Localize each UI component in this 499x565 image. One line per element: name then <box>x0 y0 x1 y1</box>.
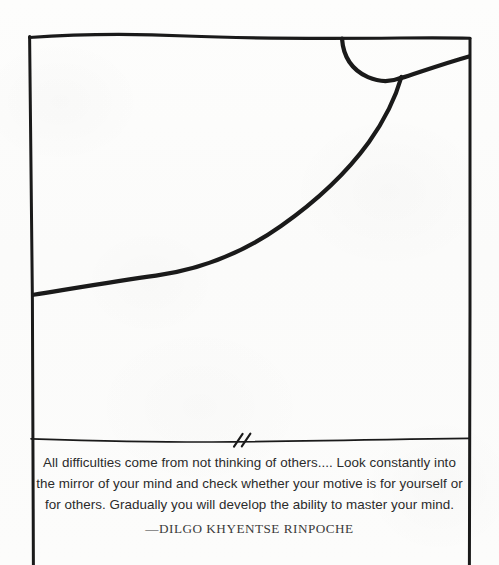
corner-arc <box>342 39 401 81</box>
quote-attribution: —DILGO KHYENTSE RINPOCHE <box>0 520 499 537</box>
horizontal-divider-rule <box>31 438 470 442</box>
quote-line-3: for others. Gradually you will develop t… <box>0 494 499 515</box>
divider-group <box>31 434 470 447</box>
short-diagonal-to-right-edge <box>401 56 469 78</box>
quote-block: All difficulties come from not thinking … <box>0 452 499 537</box>
ink-drawing-lines <box>34 39 469 295</box>
double-slash-break-mark <box>234 434 250 447</box>
frame-top-edge <box>30 35 471 39</box>
long-sweeping-curve <box>34 77 402 295</box>
quote-line-1: All difficulties come from not thinking … <box>0 452 499 473</box>
quote-line-2: the mirror of your mind and check whethe… <box>0 473 499 494</box>
scanned-page: All difficulties come from not thinking … <box>0 0 499 565</box>
